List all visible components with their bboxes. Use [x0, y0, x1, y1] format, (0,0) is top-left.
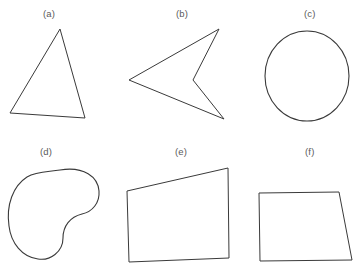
shape-e-parallelogram	[127, 168, 229, 262]
shape-label-a: (a)	[43, 8, 55, 19]
shape-figure-panel: (a) (b) (c) (d) (e) (f)	[0, 0, 356, 276]
shape-label-b: (b)	[176, 8, 188, 19]
shape-c-circle	[265, 31, 349, 121]
shape-figure-canvas	[0, 0, 356, 276]
shape-f-trapezoid	[259, 192, 352, 261]
shape-a-triangle	[10, 29, 85, 118]
shape-d-kidney-bean	[8, 169, 99, 259]
shape-label-c: (c)	[304, 8, 316, 19]
shape-label-d: (d)	[40, 146, 52, 157]
shape-label-e: (e)	[175, 146, 187, 157]
shape-label-f: (f)	[305, 146, 315, 157]
shape-b-concave-arrow	[129, 29, 224, 119]
